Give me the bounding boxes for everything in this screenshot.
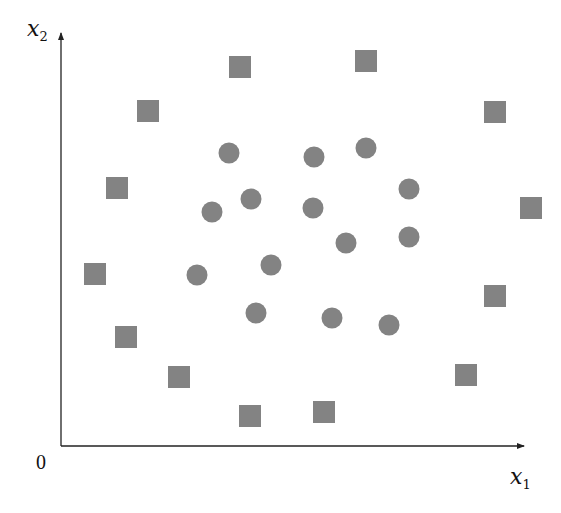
x-axis-sub: 1 [522, 477, 530, 492]
circle-point [336, 233, 357, 254]
x-axis-label: x1 [510, 466, 531, 491]
circle-point [246, 303, 267, 324]
circle-point [261, 255, 282, 276]
y-axis-var: x [27, 16, 39, 41]
square-point [239, 405, 261, 427]
y-axis-sub: 2 [39, 29, 47, 44]
square-point [115, 326, 137, 348]
scatter-diagram: x2 x1 0 [0, 0, 561, 513]
y-axis-label: x2 [27, 18, 48, 43]
square-point [355, 50, 377, 72]
circle-point [399, 227, 420, 248]
circle-point [304, 147, 325, 168]
markers-group [84, 50, 542, 427]
circle-point [241, 189, 262, 210]
circle-point [322, 308, 343, 329]
square-point [137, 100, 159, 122]
square-point [484, 285, 506, 307]
circle-point [356, 138, 377, 159]
circle-point [303, 198, 324, 219]
circle-point [202, 202, 223, 223]
square-point [455, 364, 477, 386]
square-point [484, 101, 506, 123]
circle-point [187, 265, 208, 286]
x-axis-var: x [510, 464, 522, 489]
square-point [520, 197, 542, 219]
square-point [106, 177, 128, 199]
square-point [313, 401, 335, 423]
circle-point [379, 315, 400, 336]
origin-label: 0 [36, 452, 46, 472]
circle-point [399, 179, 420, 200]
square-point [168, 366, 190, 388]
circle-point [219, 143, 240, 164]
square-point [229, 56, 251, 78]
plot-area [0, 0, 561, 513]
square-point [84, 263, 106, 285]
